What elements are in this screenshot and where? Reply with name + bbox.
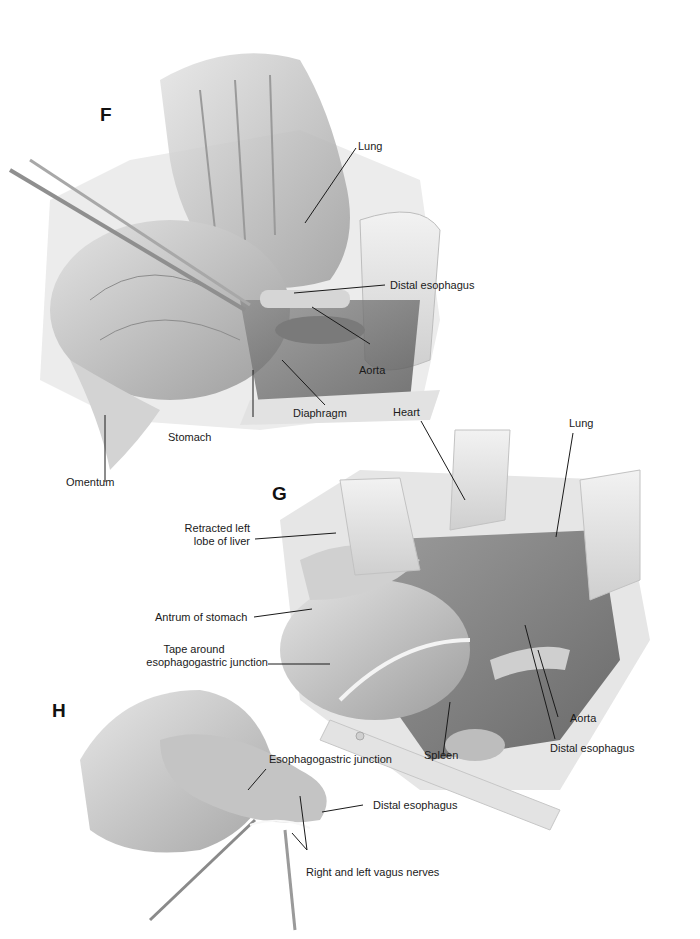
- panel-f-art: [10, 53, 440, 470]
- label-lung-g: Lung: [569, 417, 593, 430]
- label-distal-esophagus-f: Distal esophagus: [390, 279, 474, 292]
- panel-letter-h: H: [52, 700, 66, 722]
- label-lung-f: Lung: [358, 140, 382, 153]
- label-heart: Heart: [393, 406, 420, 419]
- panel-g-art: [280, 430, 650, 830]
- label-aorta-f: Aorta: [359, 364, 385, 377]
- label-aorta-g: Aorta: [570, 712, 596, 725]
- label-antrum: Antrum of stomach: [155, 611, 247, 624]
- label-diaphragm: Diaphragm: [293, 407, 347, 420]
- label-retracted-liver-line2: lobe of liver: [170, 535, 250, 548]
- label-retracted-liver-line1: Retracted left: [170, 522, 250, 535]
- label-spleen: Spleen: [424, 749, 458, 762]
- label-omentum: Omentum: [66, 476, 114, 489]
- label-retracted-liver: Retracted left lobe of liver: [170, 522, 250, 548]
- label-stomach: Stomach: [168, 431, 211, 444]
- label-vagus-nerves: Right and left vagus nerves: [306, 866, 439, 879]
- surgical-illustration: [0, 0, 700, 939]
- panel-letter-g: G: [272, 483, 287, 505]
- label-tape-line1: Tape around: [120, 643, 268, 656]
- label-eg-junction: Esophagogastric junction: [269, 753, 392, 766]
- panel-h-art: [80, 690, 327, 930]
- label-distal-esophagus-g: Distal esophagus: [550, 742, 634, 755]
- label-tape-line2: esophagogastric junction: [120, 656, 268, 669]
- panel-letter-f: F: [100, 104, 112, 126]
- label-distal-esophagus-h: Distal esophagus: [373, 799, 457, 812]
- label-tape: Tape around esophagogastric junction: [120, 643, 268, 669]
